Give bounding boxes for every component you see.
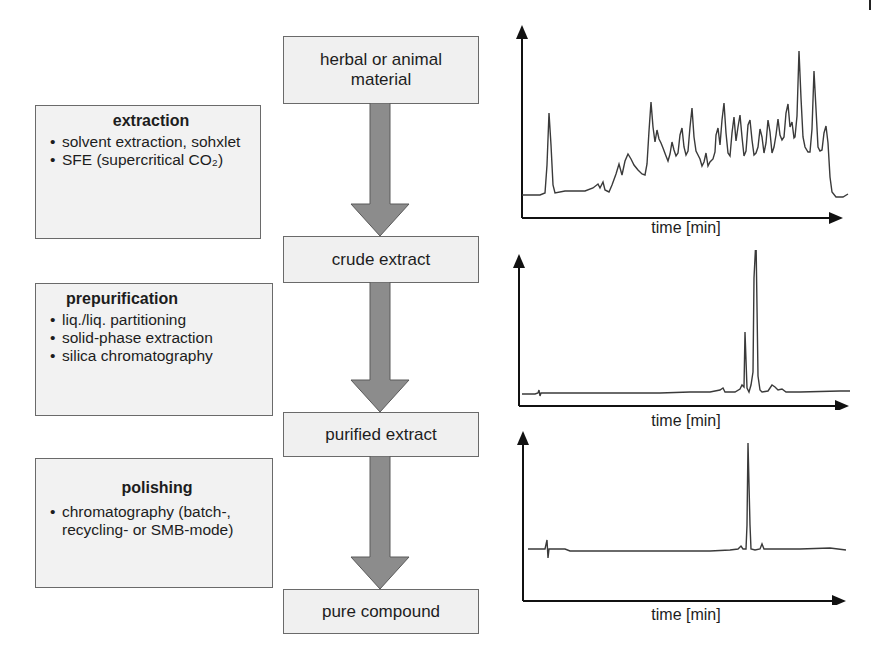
- down-arrow-icon: [350, 456, 410, 590]
- step-title: extraction: [50, 112, 252, 130]
- step-box-polishing: polishing chromatography (batch-, recycl…: [35, 458, 273, 588]
- step-title: polishing: [50, 479, 264, 497]
- stage-herbal-material: herbal or animal material: [283, 36, 479, 104]
- step-item: solid-phase extraction: [50, 329, 264, 347]
- step-item: silica chromatography: [50, 347, 264, 365]
- step-list: chromatography (batch-, recycling- or SM…: [50, 503, 264, 539]
- stage-label: crude extract: [332, 250, 430, 270]
- chromatogram-purified: [510, 250, 850, 410]
- stage-pure-compound: pure compound: [283, 589, 479, 634]
- down-arrow-icon: [350, 282, 410, 413]
- step-list: solvent extraction, sohxlet SFE (supercr…: [50, 133, 252, 169]
- step-title: prepurification: [50, 290, 264, 308]
- step-item: SFE (supercritical CO₂): [50, 151, 252, 169]
- stage-label: herbal or animal material: [306, 50, 456, 90]
- stage-label: purified extract: [325, 425, 437, 445]
- stage-label: pure compound: [322, 602, 440, 622]
- chromatogram-pure: [510, 425, 850, 605]
- step-item: solvent extraction, sohxlet: [50, 133, 252, 151]
- step-item: chromatography (batch-, recycling- or SM…: [50, 503, 264, 539]
- step-list: liq./liq. partitioning solid-phase extra…: [50, 311, 264, 365]
- stage-purified-extract: purified extract: [283, 412, 479, 457]
- page-corner-mark: [869, 0, 871, 10]
- step-box-prepurification: prepurification liq./liq. partitioning s…: [35, 283, 273, 416]
- x-axis-label: time [min]: [606, 606, 766, 624]
- stage-crude-extract: crude extract: [283, 236, 479, 283]
- x-axis-label: time [min]: [606, 219, 766, 237]
- down-arrow-icon: [350, 103, 410, 237]
- step-box-extraction: extraction solvent extraction, sohxlet S…: [35, 105, 261, 239]
- chromatogram-crude: [510, 25, 850, 225]
- step-item: liq./liq. partitioning: [50, 311, 264, 329]
